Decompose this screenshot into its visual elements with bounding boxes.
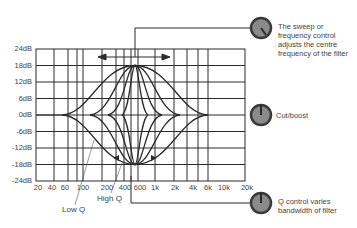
boost-low-q-curve — [62, 66, 208, 116]
x-label: 100 — [71, 183, 95, 192]
cut-boost-knob-icon[interactable] — [251, 105, 271, 125]
y-label: 24dB — [2, 44, 32, 53]
cut-curves — [62, 115, 208, 165]
cut-narrow-q-curve — [122, 115, 148, 165]
x-label: 20k — [235, 183, 259, 192]
y-label: -6dB — [2, 127, 32, 136]
low-q-pointer — [75, 140, 94, 205]
sweep-leader-line — [135, 28, 252, 57]
cut-mid-q-curve — [90, 115, 180, 165]
sweep-knob-icon[interactable] — [251, 18, 271, 38]
low-q-label: Low Q — [62, 205, 85, 214]
boost-narrow-q-curve — [122, 66, 148, 116]
y-label: -12dB — [2, 143, 32, 152]
sweep-annotation: The sweep or frequency control adjusts t… — [278, 22, 356, 58]
y-label: -18dB — [2, 160, 32, 169]
cut-low-q-curve — [62, 115, 208, 165]
y-label: 6dB — [2, 94, 32, 103]
sweep-arrow — [98, 54, 170, 60]
grid — [36, 49, 245, 181]
y-label: 18dB — [2, 61, 32, 70]
cut-boost-annotation: Cut/boost — [276, 111, 346, 120]
q-control-annotation: Q control varies bandwidth of filter — [278, 197, 356, 215]
boost-mid-q-curve — [90, 66, 180, 116]
boost-curves — [62, 66, 208, 116]
y-label: 12dB — [2, 77, 32, 86]
x-label: 10k — [212, 183, 236, 192]
q-knob-icon[interactable] — [251, 193, 271, 213]
high-q-label: High Q — [97, 194, 122, 203]
y-label: 0dB — [2, 110, 32, 119]
